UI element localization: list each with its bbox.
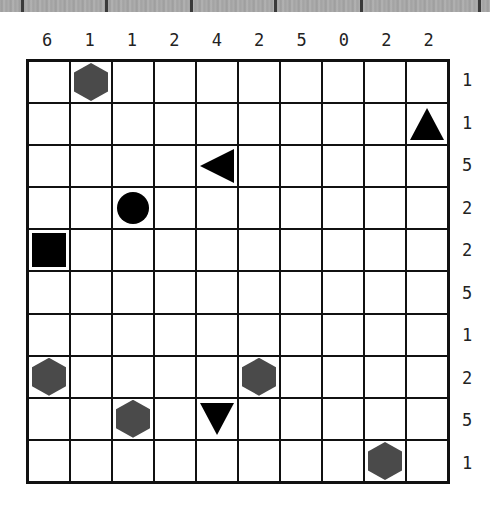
grid-cell[interactable] [196, 398, 238, 440]
grid-cell[interactable] [364, 314, 406, 356]
grid-cell[interactable] [322, 356, 364, 398]
grid-cell[interactable] [406, 440, 448, 482]
grid-cell[interactable] [322, 103, 364, 145]
grid-cell[interactable] [364, 229, 406, 271]
grid-cell[interactable] [154, 440, 196, 482]
grid-cell[interactable] [238, 103, 280, 145]
grid-cell[interactable] [112, 314, 154, 356]
grid-cell[interactable] [322, 61, 364, 103]
grid-cell[interactable] [154, 229, 196, 271]
grid-cell[interactable] [238, 398, 280, 440]
grid-cell[interactable] [322, 187, 364, 229]
grid-cell[interactable] [196, 61, 238, 103]
grid-cell[interactable] [406, 61, 448, 103]
grid-cell[interactable] [280, 103, 322, 145]
grid-cell[interactable] [112, 440, 154, 482]
grid-cell[interactable] [280, 187, 322, 229]
grid-cell[interactable] [280, 356, 322, 398]
grid-cell[interactable] [364, 145, 406, 187]
grid-cell[interactable] [406, 145, 448, 187]
grid-cell[interactable] [70, 145, 112, 187]
grid-cell[interactable] [112, 356, 154, 398]
grid-cell[interactable] [406, 229, 448, 271]
grid-cell[interactable] [364, 187, 406, 229]
grid-cell[interactable] [406, 398, 448, 440]
grid-cell[interactable] [112, 271, 154, 313]
grid-cell[interactable] [70, 314, 112, 356]
grid-cell[interactable] [238, 356, 280, 398]
grid-cell[interactable] [322, 440, 364, 482]
grid-cell[interactable] [70, 440, 112, 482]
grid-cell[interactable] [70, 398, 112, 440]
grid-cell[interactable] [280, 61, 322, 103]
grid-cell[interactable] [154, 271, 196, 313]
grid-cell[interactable] [280, 314, 322, 356]
grid-cell[interactable] [364, 398, 406, 440]
grid-cell[interactable] [154, 61, 196, 103]
grid-cell[interactable] [280, 229, 322, 271]
grid-cell[interactable] [280, 271, 322, 313]
grid-cell[interactable] [112, 103, 154, 145]
grid-cell[interactable] [280, 145, 322, 187]
grid-cell[interactable] [154, 187, 196, 229]
grid-cell[interactable] [196, 229, 238, 271]
grid-cell[interactable] [406, 314, 448, 356]
grid-cell[interactable] [154, 398, 196, 440]
grid-cell[interactable] [322, 271, 364, 313]
grid-cell[interactable] [238, 440, 280, 482]
grid-cell[interactable] [154, 145, 196, 187]
grid-cell[interactable] [238, 314, 280, 356]
grid-cell[interactable] [28, 314, 70, 356]
grid-cell[interactable] [28, 356, 70, 398]
grid-cell[interactable] [70, 356, 112, 398]
grid-cell[interactable] [28, 229, 70, 271]
grid-cell[interactable] [280, 440, 322, 482]
grid-cell[interactable] [28, 187, 70, 229]
grid-cell[interactable] [70, 61, 112, 103]
grid-cell[interactable] [406, 187, 448, 229]
grid-cell[interactable] [28, 271, 70, 313]
grid-cell[interactable] [154, 314, 196, 356]
grid-cell[interactable] [322, 145, 364, 187]
grid-cell[interactable] [70, 103, 112, 145]
grid-cell[interactable] [322, 229, 364, 271]
grid-cell[interactable] [238, 61, 280, 103]
grid-cell[interactable] [364, 440, 406, 482]
grid-cell[interactable] [238, 145, 280, 187]
grid-cell[interactable] [112, 187, 154, 229]
grid-cell[interactable] [70, 229, 112, 271]
grid-cell[interactable] [196, 271, 238, 313]
grid-cell[interactable] [238, 229, 280, 271]
grid-cell[interactable] [364, 271, 406, 313]
grid-cell[interactable] [406, 103, 448, 145]
grid-cell[interactable] [406, 271, 448, 313]
grid-cell[interactable] [196, 145, 238, 187]
grid-cell[interactable] [322, 314, 364, 356]
grid-cell[interactable] [112, 229, 154, 271]
grid-cell[interactable] [406, 356, 448, 398]
grid-cell[interactable] [28, 398, 70, 440]
grid-cell[interactable] [280, 398, 322, 440]
grid-cell[interactable] [154, 103, 196, 145]
grid-cell[interactable] [154, 356, 196, 398]
grid-cell[interactable] [196, 314, 238, 356]
grid-cell[interactable] [112, 398, 154, 440]
grid-cell[interactable] [70, 187, 112, 229]
grid-cell[interactable] [196, 440, 238, 482]
grid-cell[interactable] [322, 398, 364, 440]
grid-cell[interactable] [112, 61, 154, 103]
grid-cell[interactable] [28, 61, 70, 103]
grid-cell[interactable] [364, 61, 406, 103]
grid-cell[interactable] [364, 356, 406, 398]
grid-cell[interactable] [196, 103, 238, 145]
grid-cell[interactable] [238, 187, 280, 229]
grid-cell[interactable] [196, 187, 238, 229]
grid-cell[interactable] [238, 271, 280, 313]
grid-cell[interactable] [28, 440, 70, 482]
grid-cell[interactable] [364, 103, 406, 145]
grid-cell[interactable] [70, 271, 112, 313]
grid-cell[interactable] [112, 145, 154, 187]
grid-cell[interactable] [196, 356, 238, 398]
grid-cell[interactable] [28, 103, 70, 145]
grid-cell[interactable] [28, 145, 70, 187]
